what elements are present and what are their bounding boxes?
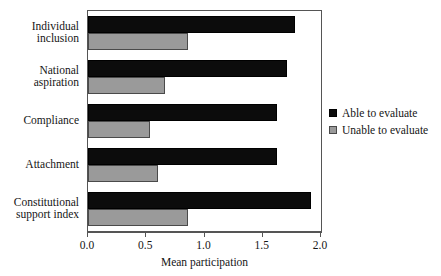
x-tick [145, 232, 146, 237]
x-tick [320, 232, 321, 237]
bar-able [88, 16, 295, 33]
x-axis-title: Mean participation [87, 256, 322, 268]
x-tick-label: 1.0 [184, 239, 224, 251]
category-axis-labels: IndividualinclusionNationalaspirationCom… [0, 10, 83, 232]
legend-item: Unable to evaluate [329, 122, 439, 137]
x-axis-line [87, 232, 322, 233]
bar-able [88, 60, 287, 77]
bar-unable [88, 77, 165, 94]
category-label-line: Constitutional [0, 196, 79, 209]
x-tick [204, 232, 205, 237]
bar-unable [88, 165, 158, 182]
x-tick-label: 0.5 [125, 239, 165, 251]
category-label-line: inclusion [0, 32, 79, 45]
bar-able [88, 192, 311, 209]
category-label: Nationalaspiration [0, 64, 79, 89]
x-tick-label: 2.0 [300, 239, 340, 251]
category-label-line: Compliance [0, 114, 79, 127]
bar-unable [88, 33, 188, 50]
x-tick [262, 232, 263, 237]
category-label-line: aspiration [0, 76, 79, 89]
bar-unable [88, 121, 150, 138]
category-label-line: Individual [0, 20, 79, 33]
legend: Able to evaluateUnable to evaluate [329, 105, 439, 139]
bar-unable [88, 209, 188, 226]
category-label: Constitutionalsupport index [0, 196, 79, 221]
category-label-line: National [0, 64, 79, 77]
category-label-line: Attachment [0, 158, 79, 171]
x-tick-label: 1.5 [242, 239, 282, 251]
legend-swatch-able-icon [329, 109, 337, 117]
category-label-line: support index [0, 208, 79, 221]
legend-swatch-unable-icon [329, 126, 337, 134]
legend-item: Able to evaluate [329, 105, 439, 120]
category-label: Individualinclusion [0, 20, 79, 45]
bar-able [88, 104, 277, 121]
legend-label: Able to evaluate [342, 107, 417, 119]
category-label: Attachment [0, 158, 79, 171]
bars-layer [88, 11, 321, 231]
bar-chart: IndividualinclusionNationalaspirationCom… [0, 0, 441, 276]
legend-label: Unable to evaluate [342, 124, 428, 136]
x-tick [87, 232, 88, 237]
x-tick-label: 0.0 [67, 239, 107, 251]
category-label: Compliance [0, 114, 79, 127]
bar-able [88, 148, 277, 165]
